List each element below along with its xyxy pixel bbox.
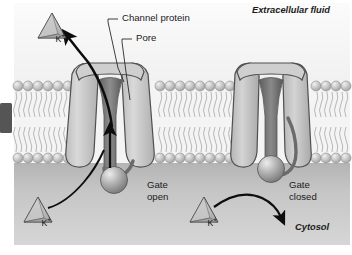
ion-charge: +: [47, 216, 51, 223]
diagram-canvas: Extracellular fluid Channel protein Pore…: [0, 0, 352, 255]
potassium-ion-cytosol-left-label: K+: [32, 206, 51, 238]
cytosol-label: Cytosol: [295, 222, 329, 232]
right-channel-subunit-left: [231, 63, 259, 167]
ion-channel-figure: Extracellular fluid Channel protein Pore…: [0, 0, 352, 248]
left-edge-tab: [0, 103, 12, 133]
right-gate-ball: [258, 156, 285, 183]
gate-closed-label-line1: Gate: [289, 180, 310, 190]
ion-charge: +: [61, 32, 65, 39]
pore-label: Pore: [136, 33, 156, 43]
potassium-ion-cytosol-right-label: K+: [198, 206, 217, 238]
potassium-ion-extracellular-label: K+: [46, 22, 65, 54]
extracellular-fluid-label: Extracellular fluid: [252, 5, 330, 15]
channel-protein-label: Channel protein: [122, 13, 190, 23]
gate-open-label-line2: open: [147, 192, 168, 202]
cytosol-region: [14, 163, 350, 245]
right-channel-protein: [231, 63, 312, 183]
left-gate-ball: [101, 167, 128, 194]
gate-closed-label-line2: closed: [289, 192, 317, 202]
ion-charge: +: [213, 216, 217, 223]
gate-open-label-line1: Gate: [147, 180, 168, 190]
